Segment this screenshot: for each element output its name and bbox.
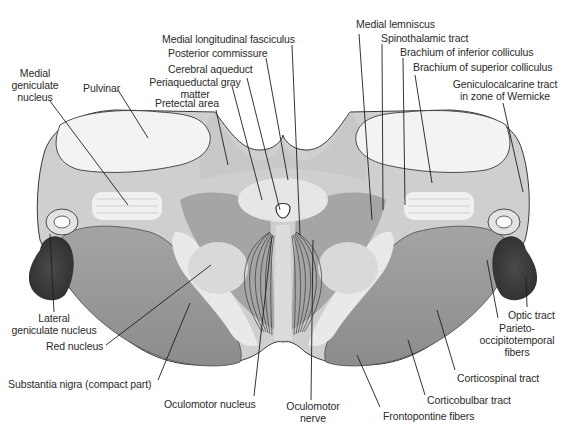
label-red-nucleus: Red nucleus [46,340,103,352]
label-pulvinar: Pulvinar [83,82,120,94]
left-pulvinar [56,111,210,173]
label-optic-tract: Optic tract [508,309,555,321]
right-pulvinar [356,111,510,173]
right-optic-tract [492,236,537,300]
label-line: Periaqueductal gray [144,76,246,88]
label-brachium-inferior-colliculus: Brachium of inferior colliculus [400,46,533,58]
label-line: Parieto- [472,322,562,334]
label-posterior-commissure: Posterior commissure [168,47,268,59]
label-spinothalamic-tract: Spinothalamic tract [381,32,468,44]
label-lateral-geniculate-nucleus: Lateral geniculate nucleus [6,312,102,336]
label-line: nucleus [10,91,60,103]
left-red-nucleus [188,242,248,294]
label-oculomotor-nerve: Oculomotor nerve [283,400,343,424]
label-medial-geniculate-nucleus: Medial geniculate nucleus [10,67,60,103]
label-frontopontine-fibers: Frontopontine fibers [383,410,474,422]
label-pretectal-area: Pretectal area [155,97,219,109]
right-red-nucleus [318,242,378,294]
label-line: Medial [10,67,60,79]
label-oculomotor-nucleus: Oculomotor nucleus [164,398,256,410]
left-lateral-geniculate-ring [46,209,78,235]
label-brachium-superior-colliculus: Brachium of superior colliculus [413,61,552,73]
label-geniculocalcarine-tract: Geniculocalcarine tract in zone of Werni… [448,78,562,102]
label-line: occipitotemporal [472,334,562,346]
right-lateral-geniculate-ring [488,209,520,235]
label-medial-longitudinal-fasciculus: Medial longitudinal fasciculus [162,33,295,45]
label-medial-lemniscus: Medial lemniscus [356,18,435,30]
label-line: geniculate [10,79,60,91]
label-line: nerve [283,412,343,424]
left-optic-tract [29,236,74,300]
label-cerebral-aqueduct: Cerebral aqueduct [168,63,253,75]
label-line: Geniculocalcarine tract [448,78,562,90]
label-corticospinal-tract: Corticospinal tract [457,372,539,384]
label-line: geniculate nucleus [6,324,102,336]
label-line: fibers [472,346,562,358]
label-line: Oculomotor [283,400,343,412]
label-corticobulbar-tract: Corticobulbar tract [427,394,511,406]
label-line: in zone of Wernicke [448,90,562,102]
cerebral-aqueduct [276,204,290,219]
label-substantia-nigra: Substantia nigra (compact part) [8,378,151,390]
label-line: Lateral [6,312,102,324]
midline-raphe [274,225,292,340]
label-parieto-occipitotemporal-fibers: Parieto- occipitotemporal fibers [472,322,562,358]
